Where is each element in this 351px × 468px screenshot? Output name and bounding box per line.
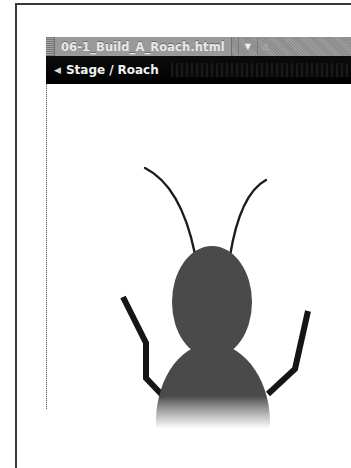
app-window: 06-1_Build_A_Roach.html ▼ ⚠ ◀ Stage / Ro… xyxy=(46,37,351,468)
right-antenna xyxy=(230,180,266,256)
document-tab-bar: 06-1_Build_A_Roach.html ▼ ⚠ xyxy=(46,37,351,57)
breadcrumb-item-roach[interactable]: Roach xyxy=(118,63,159,77)
breadcrumb: ◀ Stage / Roach xyxy=(46,56,351,84)
back-arrow-icon[interactable]: ◀ xyxy=(54,65,61,75)
tab-bar-filler xyxy=(274,37,351,56)
tab-warning-button[interactable]: ⚠ xyxy=(258,37,274,56)
tab-grip-handle[interactable] xyxy=(46,37,55,56)
roach-head xyxy=(172,246,252,358)
right-leg xyxy=(268,311,308,394)
document-tab[interactable]: 06-1_Build_A_Roach.html xyxy=(55,37,232,56)
stage-canvas[interactable] xyxy=(46,84,351,468)
roach-illustration[interactable] xyxy=(46,84,351,468)
warning-icon: ⚠ xyxy=(261,41,270,52)
tab-dropdown-button[interactable]: ▼ xyxy=(238,37,258,56)
left-antenna xyxy=(145,168,195,254)
document-tab-label: 06-1_Build_A_Roach.html xyxy=(61,40,225,54)
page: 06-1_Build_A_Roach.html ▼ ⚠ ◀ Stage / Ro… xyxy=(0,0,351,468)
left-leg xyxy=(123,297,164,397)
breadcrumb-item-stage[interactable]: Stage xyxy=(66,63,105,77)
chevron-down-icon: ▼ xyxy=(245,42,251,51)
breadcrumb-separator: / xyxy=(109,63,113,77)
breadcrumb-filler xyxy=(171,63,351,77)
